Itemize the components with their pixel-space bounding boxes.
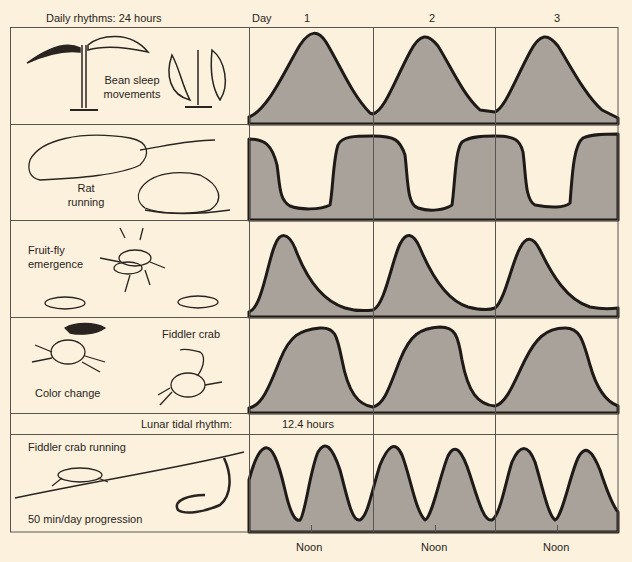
noon-tick-day-2: Noon [421,541,447,554]
day-2-label: 2 [429,12,435,25]
rat-label: Rat running [56,181,116,210]
color-change-label: Color change [35,387,100,400]
fiddler-crab-label: Fiddler crab [162,328,220,341]
bean-label-line-1: Bean sleep [97,73,167,87]
bean-label: Bean sleep movements [97,73,167,102]
fiddler-running-label: Fiddler crab running [28,441,126,454]
rat-label-line-2: running [56,195,116,209]
fruitfly-curve [249,235,618,317]
fiddler-running-curve [249,446,618,532]
bean-curve [249,33,618,124]
lunar-period-label: 12.4 hours [282,418,334,431]
lunar-tidal-label: Lunar tidal rhythm: [141,418,232,431]
fiddler-color-curve [249,327,618,413]
rhythms-diagram [0,0,632,562]
bean-label-line-2: movements [97,87,167,101]
progression-label: 50 min/day progression [28,513,142,526]
fruitfly-label-line-1: Fruit-fly [28,243,83,257]
daily-rhythms-title: Daily rhythms: 24 hours [46,12,162,25]
noon-tick-day-3: Noon [543,541,569,554]
rat-curve [249,134,618,220]
rat-label-line-1: Rat [56,181,116,195]
fruitfly-label-line-2: emergence [28,257,83,271]
fiddler-running-illustration [15,452,244,512]
day-axis-label: Day [252,12,272,25]
day-1-label: 1 [304,12,310,25]
fruitfly-label: Fruit-fly emergence [28,243,83,272]
day-3-label: 3 [554,12,560,25]
noon-tick-day-1: Noon [296,541,322,554]
